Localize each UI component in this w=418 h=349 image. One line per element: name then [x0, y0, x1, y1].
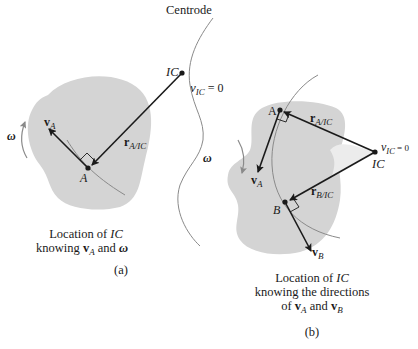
point-a-label: A	[79, 171, 88, 185]
point-b-label: B	[273, 203, 281, 217]
caption-b-line3: of vA and vB	[281, 299, 343, 315]
omega-label-a: ω	[7, 129, 16, 143]
panel-b-tag: (b)	[305, 325, 320, 339]
point-ic-b	[372, 149, 377, 154]
centrode-label: Centrode	[166, 3, 212, 17]
panel-b: A B IC vIC = 0 rA/IC rB/IC vA vB ω Locat…	[203, 75, 409, 339]
ic-diagram: IC vIC = 0 A vA rA/IC ω Location of IC k…	[0, 0, 418, 349]
panel-a-tag: (a)	[114, 263, 128, 277]
point-a-b	[277, 107, 282, 112]
centrode: Centrode	[166, 3, 213, 246]
point-ic-a	[179, 70, 184, 75]
omega-label-b: ω	[203, 151, 212, 165]
panel-a: IC vIC = 0 A vA rA/IC ω Location of IC k…	[7, 65, 224, 277]
ic-label-b: IC	[371, 157, 385, 171]
caption-b-line1: Location of IC	[275, 271, 349, 285]
v-ic-equation-b: vIC = 0	[381, 140, 409, 156]
ic-label-a: IC	[165, 65, 179, 79]
point-a	[85, 165, 90, 170]
v-ic-equation-a: vIC = 0	[190, 80, 224, 97]
omega-arrow-a	[22, 122, 27, 158]
caption-b-line2: knowing the directions	[255, 285, 370, 299]
caption-a-line2: knowing vA and ω	[36, 241, 128, 257]
centrode-curve	[178, 18, 213, 246]
vb-label: vB	[312, 245, 324, 261]
point-b	[282, 199, 287, 204]
point-a-label-b: A	[268, 104, 277, 118]
caption-a-line1: Location of IC	[49, 227, 123, 241]
